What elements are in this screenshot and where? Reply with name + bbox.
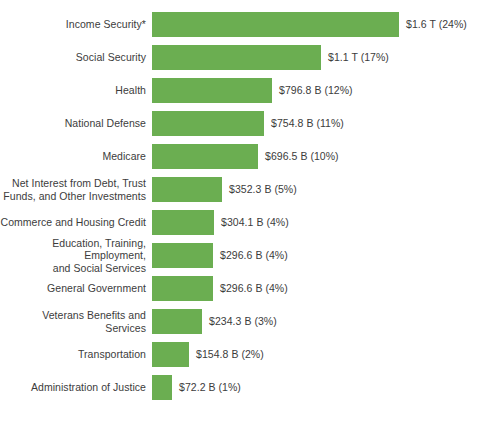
value-label: $1.1 T (17%) (321, 51, 389, 64)
bar-row: Income Security*$1.6 T (24%) (0, 8, 481, 41)
bar-row: Transportation$154.8 B (2%) (0, 338, 481, 371)
bar (152, 375, 172, 400)
category-label: Income Security* (0, 18, 152, 31)
bar-area: $296.6 B (4%) (152, 239, 481, 272)
bar (152, 12, 399, 37)
bar (152, 276, 213, 301)
category-label: Health (0, 84, 152, 97)
horizontal-bar-chart: Income Security*$1.6 T (24%)Social Secur… (0, 0, 481, 437)
bar-row: Medicare$696.5 B (10%) (0, 140, 481, 173)
category-label: National Defense (0, 117, 152, 130)
value-label: $296.6 B (4%) (213, 282, 288, 295)
bar-row: Commerce and Housing Credit$304.1 B (4%) (0, 206, 481, 239)
category-label: Commerce and Housing Credit (0, 216, 152, 229)
bar (152, 144, 258, 169)
bar-area: $696.5 B (10%) (152, 140, 481, 173)
value-label: $754.8 B (11%) (264, 117, 344, 130)
category-label: General Government (0, 282, 152, 295)
category-label: Education, Training, Employment, and Soc… (0, 237, 152, 275)
bar-area: $296.6 B (4%) (152, 272, 481, 305)
bar-area: $352.3 B (5%) (152, 173, 481, 206)
bar (152, 243, 213, 268)
category-label: Social Security (0, 51, 152, 64)
value-label: $234.3 B (3%) (202, 315, 277, 328)
bar-area: $754.8 B (11%) (152, 107, 481, 140)
bar-area: $154.8 B (2%) (152, 338, 481, 371)
value-label: $154.8 B (2%) (189, 348, 264, 361)
value-label: $296.6 B (4%) (213, 249, 288, 262)
bar-area: $72.2 B (1%) (152, 371, 481, 404)
value-label: $352.3 B (5%) (222, 183, 297, 196)
value-label: $696.5 B (10%) (258, 150, 339, 163)
bar-area: $234.3 B (3%) (152, 305, 481, 338)
value-label: $796.8 B (12%) (272, 84, 353, 97)
bar-row: Administration of Justice$72.2 B (1%) (0, 371, 481, 404)
bar-row: General Government$296.6 B (4%) (0, 272, 481, 305)
bar (152, 210, 214, 235)
bar-area: $796.8 B (12%) (152, 74, 481, 107)
bar-row: Social Security$1.1 T (17%) (0, 41, 481, 74)
bar-area: $1.6 T (24%) (152, 8, 481, 41)
category-label: Veterans Benefits and Services (0, 309, 152, 334)
bar-row: Veterans Benefits and Services$234.3 B (… (0, 305, 481, 338)
bar-row: Net Interest from Debt, Trust Funds, and… (0, 173, 481, 206)
bar-row: Education, Training, Employment, and Soc… (0, 239, 481, 272)
value-label: $304.1 B (4%) (214, 216, 289, 229)
bar (152, 342, 189, 367)
category-label: Administration of Justice (0, 381, 152, 394)
value-label: $72.2 B (1%) (172, 381, 241, 394)
bar (152, 45, 321, 70)
bar (152, 309, 202, 334)
category-label: Medicare (0, 150, 152, 163)
bar-area: $304.1 B (4%) (152, 206, 481, 239)
category-label: Transportation (0, 348, 152, 361)
bar-row: National Defense$754.8 B (11%) (0, 107, 481, 140)
category-label: Net Interest from Debt, Trust Funds, and… (0, 177, 152, 202)
bar-area: $1.1 T (17%) (152, 41, 481, 74)
bar-row: Health$796.8 B (12%) (0, 74, 481, 107)
value-label: $1.6 T (24%) (399, 18, 467, 31)
bar (152, 111, 264, 136)
bar (152, 177, 222, 202)
bar (152, 78, 272, 103)
